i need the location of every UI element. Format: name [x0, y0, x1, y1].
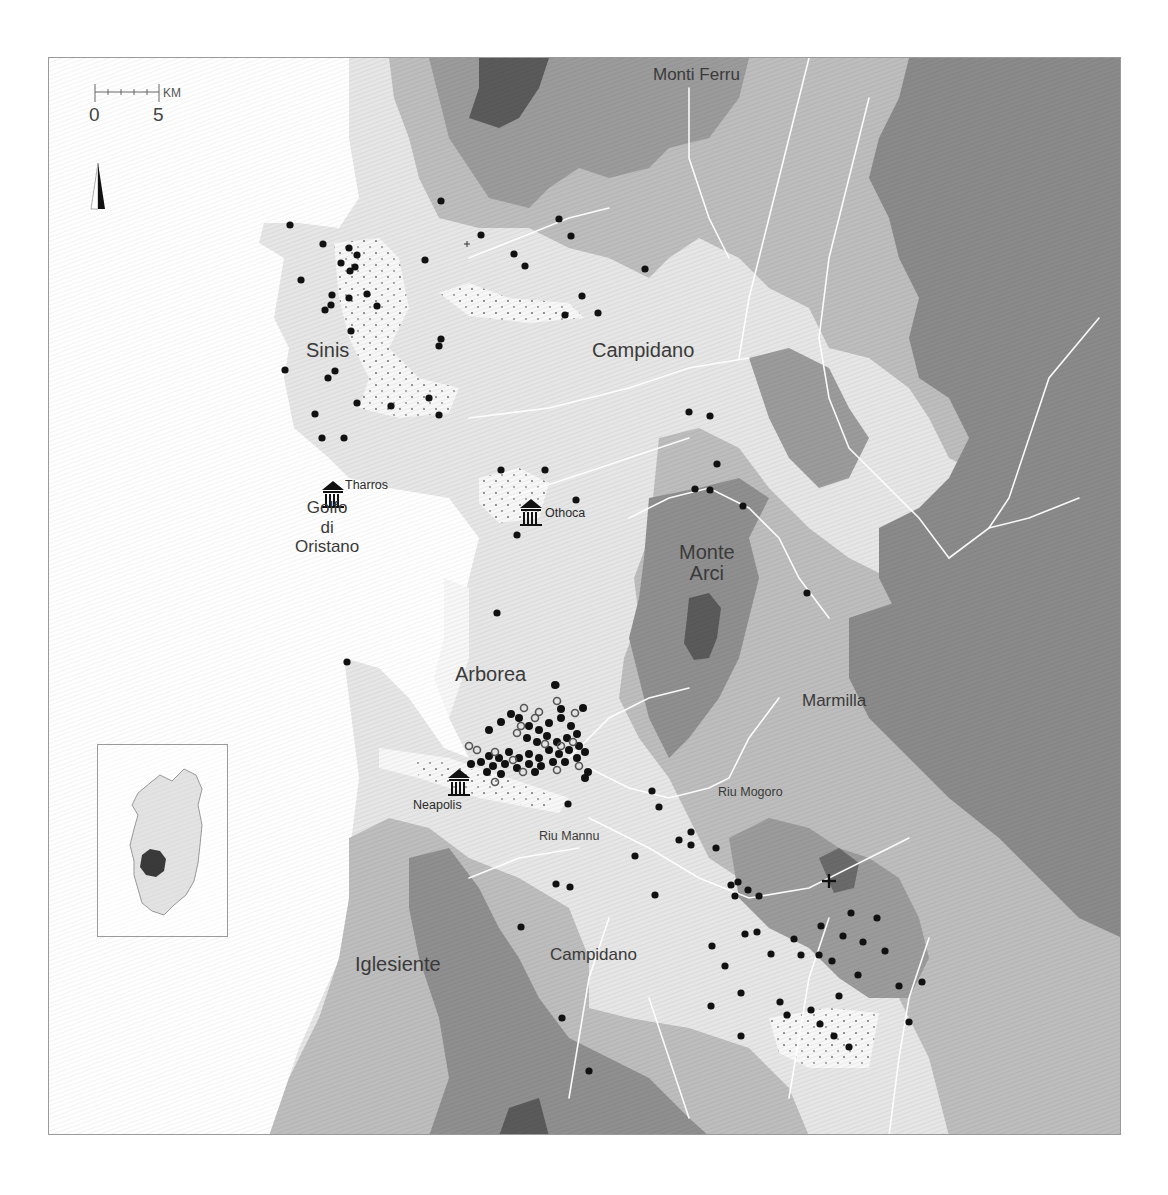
label-campidano-south: Campidano — [550, 946, 637, 963]
label-riu-mogoro: Riu Mogoro — [718, 786, 783, 799]
scale-unit: KM — [163, 86, 181, 100]
scale-min-label: 0 — [89, 104, 100, 126]
terrain-map[interactable] — [49, 58, 1121, 1135]
north-arrow-icon — [89, 161, 109, 215]
label-monti-ferru: Monti Ferru — [653, 66, 740, 83]
map-frame: Monti Ferru Sinis Campidano Golfo di Ori… — [48, 57, 1121, 1135]
label-monte-arci: Monte Arci — [679, 542, 735, 584]
label-campidano-north: Campidano — [592, 340, 694, 360]
label-golfo-di-oristano: Golfo di Oristano — [295, 498, 359, 557]
sardinia-outline — [98, 745, 227, 936]
label-arborea: Arborea — [455, 664, 526, 684]
label-iglesiente: Iglesiente — [355, 954, 441, 974]
inset-locator-map — [97, 744, 228, 937]
scale-max-label: 5 — [153, 104, 164, 126]
label-sinis: Sinis — [306, 340, 349, 360]
site-label-neapolis: Neapolis — [413, 798, 462, 812]
label-riu-mannu: Riu Mannu — [539, 830, 599, 843]
scale-bar: KM 0 5 — [93, 80, 213, 140]
label-marmilla: Marmilla — [802, 692, 866, 709]
site-label-tharros: Tharros — [345, 478, 388, 492]
site-label-othoca: Othoca — [545, 506, 585, 520]
